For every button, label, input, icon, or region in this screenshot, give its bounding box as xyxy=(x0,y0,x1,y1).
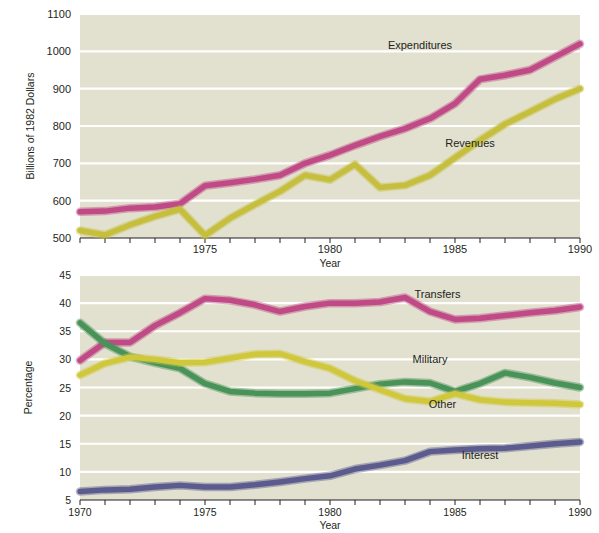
y-axis-title: Percentage xyxy=(22,360,34,414)
x-tick-label: 1975 xyxy=(193,243,217,255)
x-tick-label: 1985 xyxy=(443,506,467,518)
series-label-military: Military xyxy=(413,353,448,365)
y-tick-label: 35 xyxy=(59,325,71,337)
y-tick-label: 10 xyxy=(59,466,71,478)
series-label-expenditures: Expenditures xyxy=(388,39,453,51)
series-label-interest: Interest xyxy=(462,449,499,461)
series-label-revenues: Revenues xyxy=(445,137,495,149)
panel-top: 197519801985199050060070080090010001100Y… xyxy=(24,8,592,269)
y-tick-label: 800 xyxy=(53,120,71,132)
figure-root: 197519801985199050060070080090010001100Y… xyxy=(0,0,599,533)
two-panel-line-chart: 197519801985199050060070080090010001100Y… xyxy=(0,0,599,533)
y-tick-label: 25 xyxy=(59,382,71,394)
y-tick-label: 40 xyxy=(59,297,71,309)
y-axis-title: Billions of 1982 Dollars xyxy=(24,73,36,180)
y-tick-label: 15 xyxy=(59,438,71,450)
series-label-other: Other xyxy=(429,398,457,410)
x-tick-label: 1990 xyxy=(568,243,592,255)
panel-bottom: 1970197519801985199051015202530354045Yea… xyxy=(22,269,592,531)
y-tick-label: 20 xyxy=(59,410,71,422)
y-tick-label: 600 xyxy=(53,195,71,207)
y-tick-label: 1000 xyxy=(47,45,71,57)
x-axis-title: Year xyxy=(319,519,341,531)
x-tick-label: 1980 xyxy=(318,506,342,518)
y-tick-label: 500 xyxy=(53,232,71,244)
x-tick-label: 1990 xyxy=(568,506,592,518)
x-tick-label: 1985 xyxy=(443,243,467,255)
series-label-transfers: Transfers xyxy=(414,288,461,300)
x-axis-title: Year xyxy=(319,257,341,269)
x-tick-label: 1970 xyxy=(68,506,92,518)
y-tick-label: 700 xyxy=(53,157,71,169)
y-tick-label: 1100 xyxy=(47,8,71,20)
y-tick-label: 30 xyxy=(59,353,71,365)
y-tick-label: 45 xyxy=(59,269,71,281)
x-tick-label: 1980 xyxy=(318,243,342,255)
y-tick-label: 5 xyxy=(65,494,71,506)
x-tick-label: 1975 xyxy=(193,506,217,518)
y-tick-label: 900 xyxy=(53,83,71,95)
